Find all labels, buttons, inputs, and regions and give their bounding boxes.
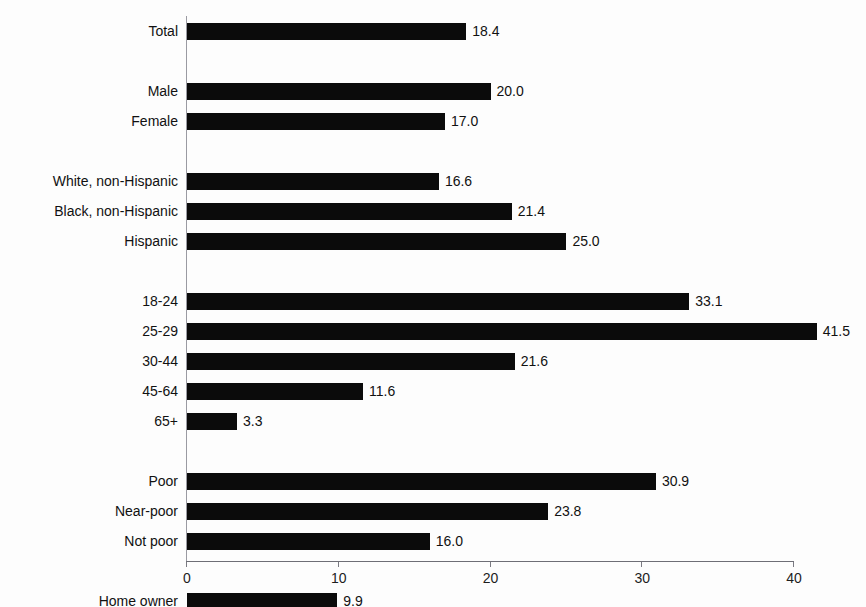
category-label: Poor (0, 473, 178, 490)
bar-row: Poor30.9 (0, 473, 866, 490)
bar (187, 353, 515, 370)
bar-value-label: 21.4 (518, 203, 545, 220)
bar-value-label: 23.8 (554, 503, 581, 520)
bar (187, 83, 491, 100)
category-label: Not poor (0, 533, 178, 550)
category-label: Male (0, 83, 178, 100)
x-axis-tick (793, 562, 794, 567)
bar (187, 593, 337, 607)
x-axis-tick-label: 20 (483, 570, 499, 586)
bar-row: Female17.0 (0, 113, 866, 130)
x-axis-tick (186, 562, 187, 567)
bar-row: White, non-Hispanic16.6 (0, 173, 866, 190)
bar-value-label: 17.0 (451, 113, 478, 130)
plot-area: 010203040 Total18.4Male20.0Female17.0Whi… (0, 0, 866, 607)
category-label: 25-29 (0, 323, 178, 340)
bar-value-label: 11.6 (369, 383, 395, 400)
x-axis-tick-label: 40 (786, 570, 802, 586)
x-axis-tick-label: 10 (331, 570, 347, 586)
category-label: White, non-Hispanic (0, 173, 178, 190)
category-label: 45-64 (0, 383, 178, 400)
bar-value-label: 21.6 (521, 353, 548, 370)
chart-container: 010203040 Total18.4Male20.0Female17.0Whi… (0, 0, 866, 607)
bar-row: Black, non-Hispanic21.4 (0, 203, 866, 220)
bar (187, 233, 566, 250)
x-axis-tick-label: 30 (634, 570, 650, 586)
bar (187, 383, 363, 400)
x-axis-tick (641, 562, 642, 567)
bar-value-label: 16.0 (436, 533, 463, 550)
category-label: Near-poor (0, 503, 178, 520)
bar-row: Male20.0 (0, 83, 866, 100)
bar-value-label: 9.9 (343, 593, 362, 607)
bar-row: Home owner9.9 (0, 593, 866, 607)
bar-row: 30-4421.6 (0, 353, 866, 370)
bar (187, 203, 512, 220)
x-axis-tick-label: 0 (183, 570, 191, 586)
category-label: Black, non-Hispanic (0, 203, 178, 220)
bar-row: Hispanic25.0 (0, 233, 866, 250)
category-label: Hispanic (0, 233, 178, 250)
bar-row: Not poor16.0 (0, 533, 866, 550)
category-label: 65+ (0, 413, 178, 430)
category-label: Home owner (0, 593, 178, 607)
bar-value-label: 3.3 (243, 413, 262, 430)
bar-row: Total18.4 (0, 23, 866, 40)
bar-value-label: 30.9 (662, 473, 689, 490)
bar-value-label: 25.0 (572, 233, 599, 250)
category-label: 30-44 (0, 353, 178, 370)
x-axis-tick (338, 562, 339, 567)
category-label: 18-24 (0, 293, 178, 310)
x-axis-tick (490, 562, 491, 567)
bar (187, 473, 656, 490)
bar-value-label: 41.5 (823, 323, 850, 340)
bar (187, 413, 237, 430)
bar (187, 503, 548, 520)
bar-row: Near-poor23.8 (0, 503, 866, 520)
bar-row: 18-2433.1 (0, 293, 866, 310)
bar (187, 173, 439, 190)
bar-value-label: 18.4 (472, 23, 499, 40)
bar (187, 113, 445, 130)
category-label: Total (0, 23, 178, 40)
bar-row: 25-2941.5 (0, 323, 866, 340)
bar-value-label: 20.0 (497, 83, 524, 100)
bar-row: 45-6411.6 (0, 383, 866, 400)
bar (187, 323, 817, 340)
category-label: Female (0, 113, 178, 130)
bar (187, 533, 430, 550)
bar (187, 293, 689, 310)
bar-value-label: 33.1 (695, 293, 722, 310)
bar (187, 23, 466, 40)
bar-row: 65+3.3 (0, 413, 866, 430)
bar-value-label: 16.6 (445, 173, 472, 190)
